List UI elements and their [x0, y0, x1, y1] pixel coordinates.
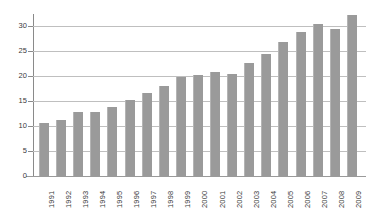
bar-2004	[261, 54, 271, 176]
bar-1999	[176, 77, 186, 177]
x-tick-label-2006: 2006	[304, 191, 312, 209]
bar-1993	[73, 112, 83, 176]
x-tick-label-1998: 1998	[167, 191, 175, 209]
bar-1996	[125, 100, 135, 176]
x-tick-label-2000: 2000	[201, 191, 209, 209]
bar-1994	[90, 112, 100, 176]
x-tick-label-2008: 2008	[338, 191, 346, 209]
bar-2000	[193, 75, 203, 177]
x-tick-label-1999: 1999	[184, 191, 192, 209]
x-tick-label-2001: 2001	[219, 191, 227, 209]
bar-2003	[244, 63, 254, 176]
bar-2006	[296, 32, 306, 176]
bar-2001	[210, 72, 220, 177]
bar-2002	[227, 74, 237, 176]
x-tick-label-1991: 1991	[48, 191, 56, 209]
bar-2005	[278, 42, 288, 176]
bar-1995	[107, 107, 117, 177]
bar-1997	[142, 93, 152, 176]
bar-1998	[159, 86, 169, 176]
x-tick-label-2005: 2005	[287, 191, 295, 209]
bar-chart-figure: 051015202530 199119921993199419951996199…	[0, 0, 378, 216]
x-tick-label-2003: 2003	[253, 191, 261, 209]
bar-1991	[39, 123, 49, 177]
x-tick-label-1994: 1994	[99, 191, 107, 209]
x-tick-label-2004: 2004	[270, 191, 278, 209]
x-tick-label-2002: 2002	[236, 191, 244, 209]
bar-1992	[56, 120, 66, 176]
x-tick-label-2007: 2007	[321, 191, 329, 209]
bar-2007	[313, 24, 323, 177]
x-tick-label-1996: 1996	[133, 191, 141, 209]
x-tick-label-2009: 2009	[355, 191, 363, 209]
x-tick-label-1997: 1997	[150, 191, 158, 209]
x-axis-labels: 1991199219931994199519961997199819992000…	[0, 176, 378, 216]
x-tick-label-1993: 1993	[82, 191, 90, 209]
x-tick-label-1992: 1992	[65, 191, 73, 209]
x-tick-label-1995: 1995	[116, 191, 124, 209]
bar-2009	[347, 15, 357, 176]
bar-2008	[330, 29, 340, 176]
